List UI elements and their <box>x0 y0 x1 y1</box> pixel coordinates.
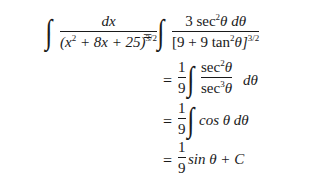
integral-sign: ∫ <box>157 15 164 49</box>
integral-sign: ∫ <box>45 15 52 49</box>
integrand: cos θ dθ <box>199 113 249 128</box>
differential: dθ <box>243 73 258 88</box>
equals-sign: = <box>163 153 172 169</box>
rhs-denominator: [9 + 9 tan2θ]3/2 <box>172 35 259 50</box>
coefficient-fraction: 1 9 <box>178 140 186 176</box>
fraction-bar <box>172 31 259 32</box>
integral-sign: ∫ <box>187 62 194 96</box>
integral-sign: ∫ <box>187 103 194 137</box>
rhs-numerator: 3 sec2θ dθ <box>185 14 246 29</box>
sec-ratio-fraction: sec2θ sec3θ <box>201 60 232 96</box>
lhs-numerator: dx <box>101 14 115 29</box>
coefficient-fraction: 1 9 <box>178 60 186 96</box>
result: sin θ + C <box>188 152 244 167</box>
equals-sign: = <box>163 73 172 89</box>
rhs-fraction: 3 sec2θ dθ [9 + 9 tan2θ]3/2 <box>172 14 259 50</box>
equals-sign: = <box>143 29 152 45</box>
coefficient-fraction: 1 9 <box>178 101 186 137</box>
equals-sign: = <box>163 114 172 130</box>
